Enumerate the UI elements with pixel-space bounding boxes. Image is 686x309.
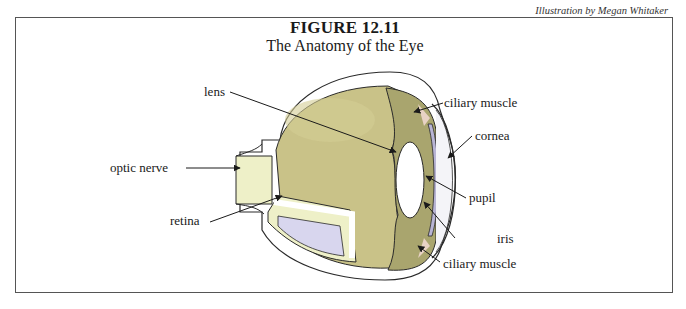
label-optic-nerve: optic nerve bbox=[110, 160, 168, 176]
label-retina: retina bbox=[170, 213, 200, 229]
label-ciliary-muscle-bottom: ciliary muscle bbox=[443, 256, 516, 272]
label-lens: lens bbox=[204, 84, 225, 100]
label-pupil: pupil bbox=[469, 190, 496, 206]
label-iris: iris bbox=[497, 231, 514, 247]
label-cornea: cornea bbox=[475, 128, 510, 144]
eye-anatomy-diagram bbox=[0, 0, 686, 309]
lens bbox=[396, 142, 424, 218]
label-ciliary-muscle-top: ciliary muscle bbox=[444, 95, 517, 111]
